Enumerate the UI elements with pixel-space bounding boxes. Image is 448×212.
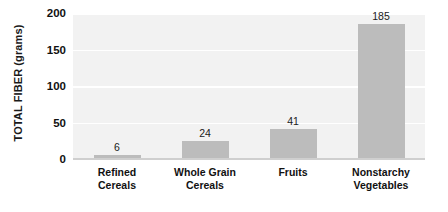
category-label-line: Fruits bbox=[278, 166, 307, 179]
bar-chart: TOTAL FIBER (grams) 050100150200 6244118… bbox=[0, 0, 448, 212]
y-axis-tick-label: 100 bbox=[47, 80, 66, 92]
y-axis-tick-label: 0 bbox=[60, 153, 66, 165]
bar-value-label: 24 bbox=[199, 127, 211, 139]
y-axis-tick-labels: 050100150200 bbox=[30, 0, 70, 166]
y-axis-tick-label: 200 bbox=[47, 7, 66, 19]
category-label-line: Cereals bbox=[174, 179, 236, 192]
bar-value-label: 41 bbox=[287, 115, 299, 127]
bar-value-label: 185 bbox=[372, 10, 390, 22]
category-label: RefinedCereals bbox=[98, 166, 137, 191]
category-label-line: Vegetables bbox=[352, 179, 410, 192]
x-axis-category-labels: RefinedCerealsWhole GrainCerealsFruitsNo… bbox=[73, 166, 425, 212]
category-label: Fruits bbox=[278, 166, 307, 179]
bar bbox=[270, 129, 317, 159]
y-axis-tick-label: 50 bbox=[53, 117, 66, 129]
category-label-line: Refined bbox=[98, 166, 137, 179]
category-label-line: Nonstarchy bbox=[352, 166, 410, 179]
category-label: Whole GrainCereals bbox=[174, 166, 236, 191]
category-label-line: Cereals bbox=[98, 179, 137, 192]
plot-area: 62441185 bbox=[73, 13, 425, 159]
y-axis-title-text: TOTAL FIBER (grams) bbox=[12, 25, 24, 142]
category-label: NonstarchyVegetables bbox=[352, 166, 410, 191]
y-axis-tick-label: 150 bbox=[47, 44, 66, 56]
bar bbox=[182, 141, 229, 159]
category-label-line: Whole Grain bbox=[174, 166, 236, 179]
x-axis-baseline bbox=[73, 158, 425, 160]
bar-value-label: 6 bbox=[114, 141, 120, 153]
bar bbox=[358, 24, 405, 159]
